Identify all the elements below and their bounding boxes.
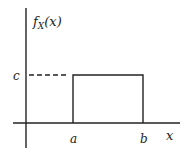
uniform-pdf-diagram: fX(x) c a b x: [0, 0, 189, 154]
x-axis-label: x: [166, 128, 174, 143]
tick-label-b: b: [140, 132, 148, 146]
tick-label-c: c: [13, 69, 20, 83]
y-axis-label: fX(x): [32, 14, 62, 31]
density-rectangle: [73, 75, 143, 123]
tick-label-a: a: [70, 132, 77, 146]
